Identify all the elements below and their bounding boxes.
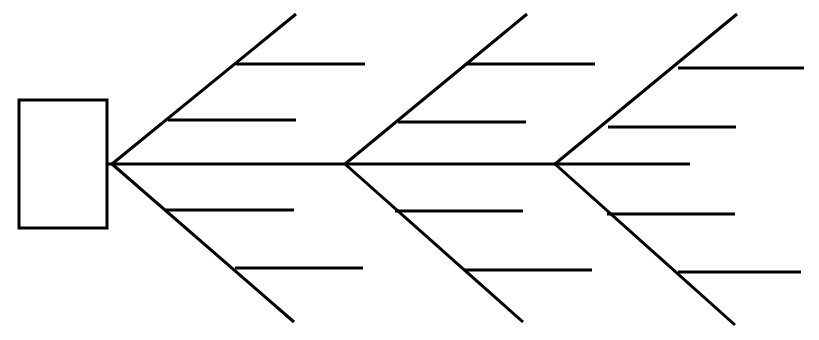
rib-upper-2[interactable]: [345, 14, 527, 164]
fishbone-diagram: [0, 0, 819, 340]
rib-lower-3[interactable]: [555, 164, 735, 325]
rib-lower-1[interactable]: [112, 164, 294, 322]
rib-up-group-3: [555, 14, 804, 164]
ribs-group: [112, 14, 804, 325]
rib-up-group-1: [112, 14, 365, 164]
rib-down-group-1: [112, 164, 363, 322]
rib-down-group-2: [345, 164, 592, 322]
rib-up-group-2: [345, 14, 595, 164]
rib-lower-2[interactable]: [345, 164, 523, 322]
fishbone-diagram-canvas: [0, 0, 819, 340]
rib-upper-1[interactable]: [112, 14, 296, 164]
rib-down-group-3: [555, 164, 801, 325]
rib-upper-3[interactable]: [555, 14, 737, 164]
effect-head-box[interactable]: [19, 100, 107, 228]
